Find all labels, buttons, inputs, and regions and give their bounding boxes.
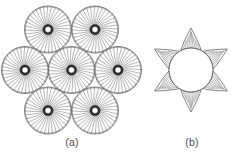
panel-a-caption: (a)	[52, 136, 92, 148]
panel-b-group	[155, 28, 228, 112]
cusp-void-3	[181, 90, 201, 113]
strand-hub-core-right	[115, 67, 121, 73]
strand-hub-core-upper-right	[92, 27, 98, 33]
strand-upper-right	[72, 6, 119, 53]
strand-hub-core-center	[69, 67, 75, 73]
strand-left	[2, 47, 49, 94]
panel-b-caption: (b)	[172, 136, 212, 148]
panel-a-group	[2, 6, 142, 134]
strand-lower-right	[72, 87, 119, 134]
strand-upper-left	[25, 6, 72, 53]
panel-b-circle	[169, 48, 213, 92]
strand-center	[48, 47, 95, 94]
cusp-void-0	[181, 28, 201, 51]
strand-lower-left	[25, 87, 72, 134]
strand-hub-core-lower-right	[92, 108, 98, 114]
strand-right	[95, 47, 142, 94]
strand-hub-core-left	[22, 67, 28, 73]
figure-container: (a) (b)	[0, 0, 233, 159]
strand-hub-core-lower-left	[45, 108, 51, 114]
strand-hub-core-upper-left	[45, 27, 51, 33]
